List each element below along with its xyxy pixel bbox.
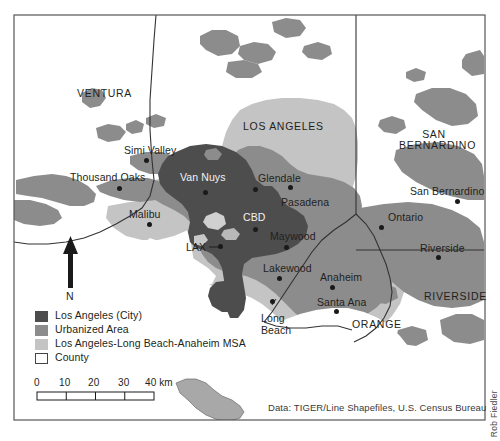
city-label-ontario: Ontario — [388, 212, 423, 223]
city-label-riverside: Riverside — [420, 243, 465, 254]
legend-label-los-angeles-city: Los Angeles (City) — [55, 310, 142, 321]
legend-swatch-county — [35, 353, 48, 364]
city-label-santa-ana: Santa Ana — [317, 297, 366, 308]
north-arrow-label: N — [66, 291, 74, 302]
city-label-san-bernardino: San Bernardino — [410, 186, 484, 197]
scale-tick-label-40-km: 40 km — [145, 378, 173, 389]
city-dot-maywood — [284, 245, 289, 250]
city-label-cbd: CBD — [243, 212, 265, 223]
city-label-simi-valley: Simi Valley — [124, 145, 176, 156]
scale-tick-label-30: 30 — [118, 378, 129, 389]
city-dot-thousand-oaks — [117, 186, 122, 191]
county-label-san-bernardino: SAN BERNARDINO — [399, 129, 469, 151]
legend-swatch-urbanized-area — [35, 325, 48, 336]
county-label-orange: ORANGE — [352, 319, 402, 330]
data-source-attribution: Data: TIGER/Line Shapefiles, U.S. Census… — [268, 403, 486, 413]
city-dot-glendale — [253, 187, 258, 192]
scale-tick-label-0: 0 — [34, 378, 40, 389]
city-dot-santa-ana — [334, 309, 339, 314]
city-dot-lax — [218, 244, 223, 249]
city-dot-cbd — [253, 227, 258, 232]
map-figure: VENTURA LOS ANGELES SAN BERNARDINO RIVER… — [0, 0, 500, 441]
author-credit: Rob Fiedler — [489, 390, 499, 437]
city-label-glendale: Glendale — [258, 173, 301, 184]
city-dot-san-bernardino — [455, 199, 460, 204]
city-label-thousand-oaks: Thousand Oaks — [70, 172, 145, 183]
city-dot-simi-valley — [144, 158, 149, 163]
city-label-malibu: Malibu — [129, 209, 161, 220]
city-dot-long-beach — [270, 299, 275, 304]
city-label-pasadena: Pasadena — [281, 197, 329, 208]
city-label-long-beach-line2: Beach — [261, 324, 291, 336]
city-dot-anaheim — [330, 285, 335, 290]
city-label-van-nuys: Van Nuys — [180, 172, 226, 183]
city-label-lakewood: Lakewood — [263, 263, 312, 274]
legend-swatch-los-angeles-city — [35, 311, 48, 322]
legend-swatch-msa — [35, 339, 48, 350]
city-label-lax: LAX — [186, 242, 206, 253]
county-label-riverside: RIVERSIDE — [424, 291, 487, 302]
city-dot-ontario — [379, 225, 384, 230]
scale-tick-label-10: 10 — [59, 378, 70, 389]
county-label-ventura: VENTURA — [77, 88, 132, 99]
city-dot-lakewood — [277, 276, 282, 281]
legend-label-urbanized-area: Urbanized Area — [55, 324, 129, 335]
legend-label-county: County — [55, 352, 89, 363]
city-label-long-beach: Long Beach — [261, 312, 291, 336]
county-label-los-angeles: LOS ANGELES — [243, 121, 324, 132]
city-label-long-beach-line1: Long — [261, 312, 285, 324]
city-dot-pasadena — [288, 185, 293, 190]
city-dot-riverside — [436, 255, 441, 260]
scale-tick-label-20: 20 — [88, 378, 99, 389]
city-dot-van-nuys — [203, 190, 208, 195]
legend-label-msa: Los Angeles-Long Beach-Anaheim MSA — [55, 338, 246, 349]
city-label-anaheim: Anaheim — [320, 272, 362, 283]
city-label-maywood: Maywood — [270, 231, 316, 242]
city-dot-malibu — [147, 222, 152, 227]
